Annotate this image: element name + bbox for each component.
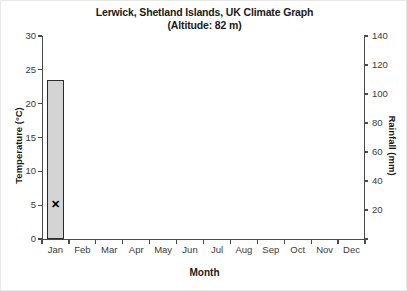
y-axis-left-tick-label: 30	[0, 30, 36, 41]
y-axis-right-tick	[364, 209, 368, 210]
y-axis-left-tick-label: 25	[0, 64, 36, 75]
chart-title: Lerwick, Shetland Islands, UK Climate Gr…	[1, 6, 407, 32]
y-axis-left-spine	[42, 36, 43, 240]
y-axis-right-tick	[364, 93, 368, 94]
y-axis-left-tick-label: 10	[0, 165, 36, 176]
y-axis-right-tick-label: 120	[372, 59, 407, 70]
climate-graph-figure: Lerwick, Shetland Islands, UK Climate Gr…	[0, 0, 407, 291]
y-axis-right-tick-label: 80	[372, 117, 407, 128]
plot-area: 051015202530 20406080100120140 JanFebMar…	[42, 36, 365, 240]
y-axis-right-tick	[364, 122, 368, 123]
y-axis-right-tick	[364, 35, 368, 36]
x-axis-tick-label: Dec	[332, 244, 372, 255]
y-axis-right-tick-label: 40	[372, 175, 407, 186]
y-axis-right-tick	[364, 64, 368, 65]
y-axis-right-tick	[364, 151, 368, 152]
chart-title-main: Lerwick, Shetland Islands, UK Climate Gr…	[1, 6, 407, 19]
y-axis-left-tick	[38, 103, 42, 104]
y-axis-right-tick-label: 140	[372, 30, 407, 41]
y-axis-left-tick-label: 0	[0, 233, 36, 244]
x-axis-title: Month	[1, 267, 407, 278]
rainfall-bar	[47, 80, 64, 240]
y-axis-left-tick	[38, 69, 42, 70]
y-axis-right-tick-label: 100	[372, 88, 407, 99]
temperature-marker: ✕	[48, 199, 62, 210]
y-axis-right-tick-label: 60	[372, 146, 407, 157]
y-axis-left-tick	[38, 205, 42, 206]
y-axis-left-tick	[38, 35, 42, 36]
y-axis-left-tick-label: 5	[0, 199, 36, 210]
y-axis-right-tick-label: 20	[372, 204, 407, 215]
y-axis-left-tick-label: 20	[0, 98, 36, 109]
y-axis-left-tick	[38, 171, 42, 172]
chart-title-subtitle: (Altitude: 82 m)	[1, 19, 407, 32]
y-axis-right-tick	[364, 180, 368, 181]
y-axis-left-tick	[38, 137, 42, 138]
y-axis-left-tick-label: 15	[0, 132, 36, 143]
